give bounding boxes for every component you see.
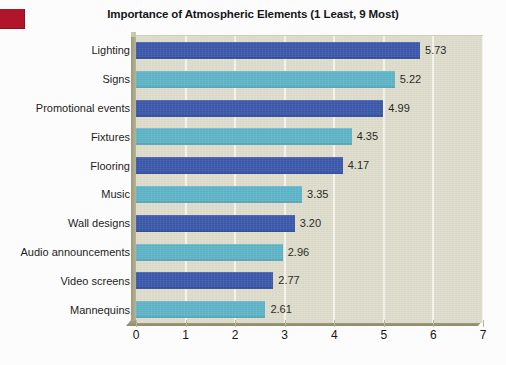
y-axis-label-music: Music xyxy=(0,188,130,200)
y-axis-label-wall-designs: Wall designs xyxy=(0,217,130,229)
bar-value-label: 2.77 xyxy=(278,272,299,289)
bar-video-screens xyxy=(136,272,273,289)
chart-figure: Importance of Atmospheric Elements (1 Le… xyxy=(0,0,506,365)
bar-value-label: 2.61 xyxy=(270,301,291,318)
y-axis-label-audio-announcements: Audio announcements xyxy=(0,246,130,258)
bar-lighting xyxy=(136,42,420,59)
x-axis-tick xyxy=(483,320,484,327)
chart-title: Importance of Atmospheric Elements (1 Le… xyxy=(0,8,506,20)
x-axis-tick-label: 6 xyxy=(422,328,444,342)
x-axis-tick-label: 2 xyxy=(224,328,246,342)
bar-value-label: 4.17 xyxy=(348,157,369,174)
gridline xyxy=(482,36,483,323)
plot-area: 5.735.224.994.354.173.353.202.962.772.61 xyxy=(136,35,483,323)
y-axis-label-promotional-events: Promotional events xyxy=(0,102,130,114)
y-axis-label-lighting: Lighting xyxy=(0,44,130,56)
y-axis-label-flooring: Flooring xyxy=(0,160,130,172)
bar-mannequins xyxy=(136,301,265,318)
bar-promotional-events xyxy=(136,100,383,117)
y-axis-label-fixtures: Fixtures xyxy=(0,131,130,143)
bar-fixtures xyxy=(136,128,352,145)
bar-signs xyxy=(136,71,395,88)
bar-wall-designs xyxy=(136,215,295,232)
bar-flooring xyxy=(136,157,343,174)
x-axis-tick xyxy=(136,320,137,327)
x-axis-tick-label: 0 xyxy=(125,328,147,342)
x-axis-tick xyxy=(285,320,286,327)
y-axis-label-video-screens: Video screens xyxy=(0,275,130,287)
x-axis-tick-label: 7 xyxy=(472,328,494,342)
bar-value-label: 3.35 xyxy=(307,186,328,203)
x-axis-tick-label: 1 xyxy=(175,328,197,342)
bar-audio-announcements xyxy=(136,244,283,261)
x-axis-tick-label: 4 xyxy=(323,328,345,342)
bar-music xyxy=(136,186,302,203)
x-axis-tick-label: 3 xyxy=(274,328,296,342)
y-axis-category-labels: LightingSignsPromotional eventsFixturesF… xyxy=(0,33,130,318)
bar-value-label: 4.35 xyxy=(357,128,378,145)
gridline xyxy=(432,36,434,323)
bar-value-label: 3.20 xyxy=(300,215,321,232)
y-axis-label-signs: Signs xyxy=(0,73,130,85)
x-axis: 01234567 xyxy=(131,320,506,348)
plot-shell: 5.735.224.994.354.173.353.202.962.772.61 xyxy=(131,32,506,328)
x-axis-tick xyxy=(433,320,434,327)
x-axis-tick xyxy=(235,320,236,327)
x-axis-tick xyxy=(334,320,335,327)
x-axis-tick-label: 5 xyxy=(373,328,395,342)
bar-value-label: 5.73 xyxy=(425,42,446,59)
bar-value-label: 5.22 xyxy=(400,71,421,88)
x-axis-tick xyxy=(384,320,385,327)
x-axis-tick xyxy=(186,320,187,327)
bar-value-label: 4.99 xyxy=(388,100,409,117)
bar-value-label: 2.96 xyxy=(288,244,309,261)
y-axis-label-mannequins: Mannequins xyxy=(0,304,130,316)
